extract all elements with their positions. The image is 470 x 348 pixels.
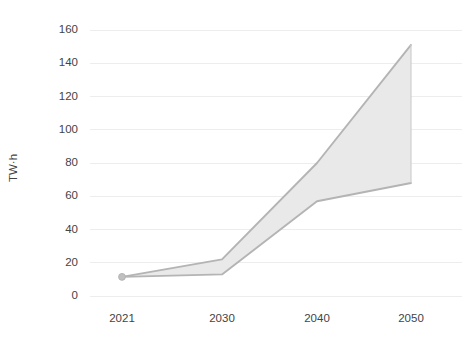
x-tick-label-2040: 2040	[304, 312, 330, 324]
x-axis-tick-labels: 2021203020402050	[109, 312, 424, 324]
x-tick-label-2050: 2050	[398, 312, 424, 324]
y-tick-label-40: 40	[65, 223, 78, 235]
y-axis-title: TW·h	[7, 154, 19, 182]
y-tick-label-80: 80	[65, 156, 78, 168]
range-band-fill	[122, 45, 411, 277]
y-tick-label-0: 0	[72, 289, 78, 301]
x-tick-label-2021: 2021	[109, 312, 135, 324]
range-area-chart: 020406080100120140160 2021203020402050 T…	[0, 0, 470, 348]
y-tick-label-160: 160	[59, 23, 78, 35]
x-tick-label-2030: 2030	[209, 312, 235, 324]
y-tick-label-60: 60	[65, 189, 78, 201]
y-tick-label-20: 20	[65, 256, 78, 268]
start-point-marker	[119, 273, 126, 280]
y-tick-label-100: 100	[59, 123, 78, 135]
y-axis-tick-labels: 020406080100120140160	[59, 23, 78, 301]
y-tick-label-140: 140	[59, 56, 78, 68]
y-tick-label-120: 120	[59, 90, 78, 102]
chart-container: 020406080100120140160 2021203020402050 T…	[0, 0, 470, 348]
